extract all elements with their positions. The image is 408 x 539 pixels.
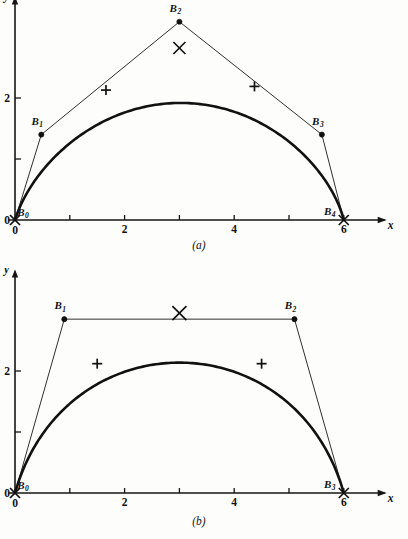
figure-b: yx246020B0B1B2B3(b): [0, 268, 408, 539]
curve-x-marker: [172, 306, 186, 320]
x-axis-label: x: [387, 492, 394, 504]
y-axis-tick-label: 2: [4, 365, 10, 377]
control-point-dot: [39, 132, 44, 137]
control-point-subscript: 2: [176, 7, 181, 16]
control-point-label: B3: [323, 478, 336, 492]
curve-plus-marker: [257, 359, 267, 369]
x-axis-tick-label: 6: [341, 496, 347, 508]
y-origin-label: 0: [4, 487, 10, 499]
y-origin-label: 0: [4, 214, 10, 226]
control-point-label: B2: [284, 299, 297, 313]
control-point-subscript: 4: [331, 210, 336, 219]
control-point-label: B3: [311, 115, 324, 129]
control-point-dot: [177, 19, 182, 24]
y-axis-label: y: [2, 0, 10, 3]
y-axis-arrow-icon: [12, 0, 18, 4]
control-point-4: B4: [323, 205, 336, 219]
control-point-dot: [319, 132, 324, 137]
curve-plus-marker: [92, 359, 102, 369]
x-axis-tick-label: 4: [231, 496, 237, 508]
bezier-chart-b: yx246020B0B1B2B3(b): [0, 268, 408, 539]
control-point-1: B1: [54, 299, 67, 322]
control-polygon: [15, 22, 344, 220]
control-point-subscript: 1: [39, 120, 43, 129]
figure-a: yx246020B0B1B2B3B4(a): [0, 0, 408, 268]
y-axis-label: y: [2, 268, 10, 276]
figure-caption: (a): [192, 239, 206, 252]
x-origin-label: 0: [12, 497, 18, 509]
x-axis-tick-label: 6: [341, 223, 347, 235]
x-axis-tick-label: 4: [231, 223, 237, 235]
bezier-chart-a: yx246020B0B1B2B3B4(a): [0, 0, 408, 268]
control-point-0: B0: [16, 206, 29, 220]
control-point-subscript: 2: [292, 305, 297, 314]
control-point-label: B4: [323, 205, 336, 219]
curve-plus-marker: [249, 81, 259, 91]
bezier-curve: [15, 363, 344, 493]
control-point-dot: [62, 317, 67, 322]
figure-page: yx246020B0B1B2B3B4(a) yx246020B0B1B2B3(b…: [0, 0, 408, 539]
control-point-subscript: 0: [25, 211, 29, 220]
control-point-label: B0: [16, 206, 29, 220]
control-point-1: B1: [31, 115, 44, 138]
curve-x-marker: [173, 42, 185, 54]
x-axis-tick-label: 2: [122, 223, 128, 235]
x-axis-label: x: [387, 219, 394, 231]
control-point-label: B1: [54, 299, 67, 313]
axes-group: yx246020: [2, 0, 394, 236]
control-point-subscript: 3: [319, 120, 324, 129]
control-point-2: B2: [169, 2, 182, 25]
control-point-0: B0: [16, 479, 29, 493]
x-axis-arrow-icon: [378, 217, 387, 223]
control-point-3: B3: [311, 115, 324, 138]
control-point-label: B0: [16, 479, 29, 493]
x-axis-tick-label: 2: [122, 496, 128, 508]
control-point-2: B2: [284, 299, 297, 322]
control-polygon: [15, 319, 344, 493]
control-point-3: B3: [323, 478, 336, 492]
control-point-subscript: 3: [331, 483, 336, 492]
curve-plus-marker: [101, 85, 111, 95]
x-origin-label: 0: [12, 224, 18, 236]
control-point-subscript: 1: [62, 305, 66, 314]
control-point-label: B2: [169, 2, 182, 16]
x-axis-arrow-icon: [378, 490, 387, 496]
control-point-subscript: 0: [25, 484, 29, 493]
y-axis-arrow-icon: [12, 269, 18, 277]
y-axis-tick-label: 2: [4, 92, 10, 104]
control-point-dot: [292, 317, 297, 322]
bezier-curve: [15, 103, 344, 220]
control-point-label: B1: [31, 115, 44, 129]
figure-caption: (b): [192, 515, 206, 528]
